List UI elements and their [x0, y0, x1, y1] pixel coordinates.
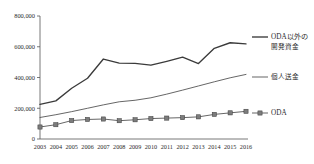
- data-point-marker: [133, 118, 137, 122]
- line-chart: 0200,000400,000600,000800,000 2003200420…: [0, 0, 314, 164]
- data-point-marker: [85, 117, 89, 121]
- data-point-marker: [212, 112, 216, 116]
- x-tick-label: 2012: [176, 143, 188, 150]
- x-tick-label: 2010: [145, 143, 157, 150]
- legend-square-marker: [258, 111, 262, 115]
- y-tick-label: 200,000: [14, 105, 35, 112]
- x-tick-label: 2015: [224, 143, 236, 150]
- x-tick-label: 2006: [81, 143, 93, 150]
- x-tick-label: 2013: [192, 143, 204, 150]
- x-tick-label: 2007: [97, 143, 109, 150]
- legend-label: ODA以外の: [271, 32, 308, 41]
- data-point-marker: [149, 116, 153, 120]
- data-point-marker: [117, 119, 121, 123]
- data-point-marker: [165, 116, 169, 120]
- legend-label: 個人送金: [271, 72, 299, 81]
- y-tick-label: 0: [32, 135, 35, 142]
- data-point-marker: [196, 115, 200, 119]
- data-point-marker: [228, 111, 232, 115]
- x-tick-label: 2008: [113, 143, 125, 150]
- data-point-marker: [54, 123, 58, 127]
- data-point-marker: [101, 117, 105, 121]
- x-tick-label: 2005: [66, 143, 78, 150]
- y-tick-label: 600,000: [14, 43, 35, 50]
- legend-label: ODA: [271, 109, 287, 117]
- x-tick-label: 2004: [50, 143, 62, 150]
- chart-container: 0200,000400,000600,000800,000 2003200420…: [0, 0, 314, 164]
- data-point-marker: [70, 118, 74, 122]
- x-tick-label: 2016: [240, 143, 252, 150]
- data-point-marker: [181, 116, 185, 120]
- y-tick-label: 400,000: [14, 74, 35, 81]
- x-tick-label: 2009: [129, 143, 141, 150]
- legend-label-line2: 開発資金: [271, 42, 299, 51]
- y-tick-label: 800,000: [14, 12, 35, 19]
- data-point-marker: [244, 109, 248, 113]
- x-tick-label: 2011: [161, 143, 173, 150]
- x-tick-label: 2014: [208, 143, 220, 150]
- x-tick-label: 2003: [34, 143, 46, 150]
- data-point-marker: [38, 125, 42, 129]
